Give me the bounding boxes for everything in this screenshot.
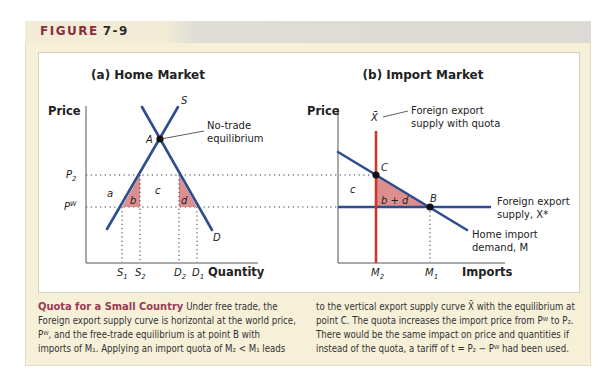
d1-sub: 1 <box>200 273 204 281</box>
supply-label-s: S <box>181 95 188 106</box>
quota-supply-label-2: supply with quota <box>411 118 500 129</box>
point-b-marker <box>426 203 433 210</box>
area-a-label: a <box>107 188 113 199</box>
demand-label-2: demand, M <box>472 242 528 253</box>
import-price-label: Price <box>307 104 340 118</box>
point-c-marker <box>372 171 379 178</box>
no-trade-leader-line <box>161 131 204 139</box>
quota-supply-label-1: Foreign export <box>411 105 484 116</box>
caption-line-1: Quota for a Small CountryUnder free trad… <box>38 300 300 314</box>
imports-axis-label: Imports <box>462 265 513 279</box>
home-quantity-label: Quantity <box>208 265 265 279</box>
import-area-c-label: c <box>350 184 356 195</box>
p2-label-sub: 2 <box>72 175 77 183</box>
m1-sub: 1 <box>434 273 438 281</box>
pw-label: PW <box>64 200 77 212</box>
d2-tick-label: D2 <box>174 267 187 281</box>
d1-tick-label: D1 <box>192 267 204 281</box>
caption-right-column: to the vertical export supply curve X̄ w… <box>316 300 578 356</box>
fx-supply-label-1: Foreign export <box>497 196 570 207</box>
no-trade-label-2: equilibrium <box>207 133 264 144</box>
demand-label-d: D <box>213 232 221 243</box>
pw-label-sup: W <box>70 200 77 208</box>
area-b-label: b <box>130 195 136 206</box>
xbar-label: X̄ <box>370 111 379 123</box>
s1-tick-label: S1 <box>117 267 128 281</box>
demand-curve-d <box>142 107 212 230</box>
area-d-label: d <box>181 195 188 206</box>
point-b-label: B <box>430 193 437 204</box>
m2-tick-label: M2 <box>371 267 385 281</box>
fx-supply-label-2: supply, X* <box>497 209 548 220</box>
caption-left-line-0: Under free trade, the <box>186 301 277 312</box>
supply-curve-s <box>107 107 178 229</box>
m2-sub: 2 <box>380 273 385 281</box>
caption-right-line-2: There would be the same impact on price … <box>316 328 578 342</box>
point-c-label: C <box>381 162 388 173</box>
point-a-label: A <box>145 134 153 145</box>
m2-main: M <box>371 267 380 278</box>
import-area-bd-label: b + d <box>381 195 409 206</box>
s1-sub: 1 <box>123 273 127 281</box>
p2-label: P2 <box>66 169 77 183</box>
caption-right-line-1: point C. The quota increases the import … <box>316 314 578 328</box>
import-demand-curve-m <box>338 152 467 230</box>
caption-left-line-1: Foreign export supply curve is horizonta… <box>38 314 300 328</box>
s2-tick-label: S2 <box>135 267 146 281</box>
demand-label-1: Home import <box>472 229 538 240</box>
m1-tick-label: M1 <box>425 267 438 281</box>
home-market-title: (a) Home Market <box>91 68 205 82</box>
caption-right-line-3: instead of the quota, a tariff of t = P₂… <box>316 342 578 356</box>
area-c-label: c <box>155 185 161 196</box>
import-market-chart: (b) Import Market Price Imports X̄ Forei… <box>307 68 570 281</box>
caption-right-line-0: to the vertical export supply curve X̄ w… <box>316 300 578 314</box>
d2-sub: 2 <box>182 273 187 281</box>
caption-title: Quota for a Small Country <box>38 300 183 313</box>
home-price-label: Price <box>48 104 81 118</box>
m1-main: M <box>425 267 434 278</box>
caption-left-line-2: Pᵂ, and the free-trade equilibrium is at… <box>38 328 300 342</box>
quota-leader-line <box>383 111 408 117</box>
caption-left-line-3: imports of M₁. Applying an import quota … <box>38 342 300 356</box>
caption-left-column: Quota for a Small CountryUnder free trad… <box>38 300 300 356</box>
import-market-title: (b) Import Market <box>363 68 484 82</box>
no-trade-label-1: No-trade <box>207 120 251 131</box>
s2-sub: 2 <box>141 273 146 281</box>
